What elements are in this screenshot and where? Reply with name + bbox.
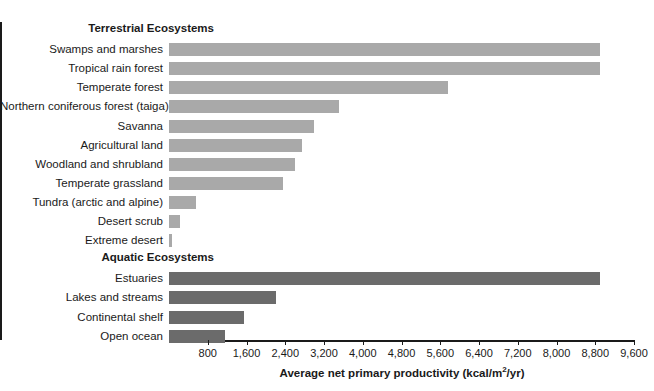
category-label-swamps-and-marshes: Swamps and marshes xyxy=(0,43,169,56)
x-tick-label-4800: 4,800 xyxy=(388,347,416,359)
x-axis-title-tail: /yr) xyxy=(507,367,525,379)
category-label-tundra-arctic-and-alpine: Tundra (arctic and alpine) xyxy=(0,196,169,209)
category-label-temperate-grassland: Temperate grassland xyxy=(0,177,169,190)
x-tick-label-7200: 7,200 xyxy=(504,347,532,359)
x-tick-8000 xyxy=(557,340,558,345)
x-tick-label-3200: 3,200 xyxy=(310,347,338,359)
category-label-northern-coniferous-forest-taiga: Northern coniferous forest (taiga) xyxy=(0,100,169,113)
bar-open-ocean xyxy=(169,330,225,343)
x-tick-label-1600: 1,600 xyxy=(233,347,261,359)
x-tick-800 xyxy=(208,340,209,345)
category-label-agricultural-land: Agricultural land xyxy=(0,139,169,152)
x-tick-3200 xyxy=(324,340,325,345)
category-label-temperate-forest: Temperate forest xyxy=(0,81,169,94)
bar-tundra-arctic-and-alpine xyxy=(169,196,196,209)
x-tick-9600 xyxy=(634,340,635,345)
category-label-desert-scrub: Desert scrub xyxy=(0,215,169,228)
x-tick-label-8800: 8,800 xyxy=(581,347,609,359)
category-label-extreme-desert: Extreme desert xyxy=(0,234,169,247)
bar-tropical-rain-forest xyxy=(169,62,600,75)
bar-continental-shelf xyxy=(169,311,244,324)
x-tick-4000 xyxy=(363,340,364,345)
x-tick-6400 xyxy=(479,340,480,345)
bar-desert-scrub xyxy=(169,215,180,228)
bar-lakes-and-streams xyxy=(169,291,276,304)
x-tick-label-9600: 9,600 xyxy=(620,347,648,359)
x-tick-8800 xyxy=(595,340,596,345)
y-axis-line xyxy=(0,22,2,340)
bar-swamps-and-marshes xyxy=(169,43,600,56)
category-label-lakes-and-streams: Lakes and streams xyxy=(0,291,169,304)
category-label-savanna: Savanna xyxy=(0,120,169,133)
bar-woodland-and-shrubland xyxy=(169,158,295,171)
x-tick-2400 xyxy=(285,340,286,345)
category-label-continental-shelf: Continental shelf xyxy=(0,311,169,324)
x-tick-label-6400: 6,400 xyxy=(465,347,493,359)
x-tick-1600 xyxy=(247,340,248,345)
x-tick-4800 xyxy=(402,340,403,345)
x-tick-label-800: 800 xyxy=(199,347,217,359)
x-tick-7200 xyxy=(518,340,519,345)
bar-extreme-desert xyxy=(169,234,172,247)
x-axis-title: Average net primary productivity (kcal/m… xyxy=(169,367,635,379)
bar-temperate-forest xyxy=(169,81,448,94)
category-label-tropical-rain-forest: Tropical rain forest xyxy=(0,62,169,75)
bar-northern-coniferous-forest-taiga xyxy=(169,100,339,113)
bar-agricultural-land xyxy=(169,139,302,152)
category-label-estuaries: Estuaries xyxy=(0,272,169,285)
x-tick-label-8000: 8,000 xyxy=(543,347,571,359)
chart-container: Terrestrial EcosystemsSwamps and marshes… xyxy=(0,0,654,391)
bar-estuaries xyxy=(169,272,600,285)
x-tick-label-4000: 4,000 xyxy=(349,347,377,359)
category-label-open-ocean: Open ocean xyxy=(0,330,169,343)
plot-area xyxy=(169,22,634,340)
bar-temperate-grassland xyxy=(169,177,283,190)
x-axis-title-main: Average net primary productivity (kcal/m xyxy=(280,367,503,379)
x-tick-label-5600: 5,600 xyxy=(426,347,454,359)
x-tick-label-2400: 2,400 xyxy=(271,347,299,359)
category-label-woodland-and-shrubland: Woodland and shrubland xyxy=(0,158,169,171)
bar-savanna xyxy=(169,120,314,133)
x-tick-5600 xyxy=(440,340,441,345)
